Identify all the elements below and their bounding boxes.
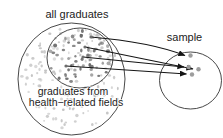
dot xyxy=(44,55,46,59)
dot xyxy=(103,39,106,42)
dot xyxy=(91,123,94,126)
dot xyxy=(80,34,83,38)
dot xyxy=(87,110,89,112)
dot xyxy=(68,51,70,54)
selected-dot xyxy=(81,55,84,58)
dot xyxy=(82,112,84,114)
dot xyxy=(27,91,29,93)
dot xyxy=(53,44,57,48)
dot xyxy=(95,54,98,57)
dot xyxy=(89,50,92,53)
sampling-diagram: all graduates sample graduates from heal… xyxy=(0,0,223,138)
dot xyxy=(81,29,84,33)
dot xyxy=(62,49,65,51)
selected-dot xyxy=(64,64,67,67)
dot xyxy=(95,122,98,124)
dot xyxy=(43,120,45,122)
dot xyxy=(99,55,102,57)
dot xyxy=(62,109,65,111)
dot xyxy=(72,108,75,111)
dot xyxy=(72,63,74,65)
dot xyxy=(91,40,93,42)
dot xyxy=(50,45,53,47)
dot xyxy=(55,117,58,120)
dot xyxy=(100,46,103,49)
dot xyxy=(113,76,115,80)
dot xyxy=(41,65,43,68)
dot xyxy=(82,64,85,66)
dot xyxy=(79,54,81,57)
dot xyxy=(39,78,42,81)
dot xyxy=(86,42,88,45)
dot xyxy=(86,54,90,57)
dot xyxy=(73,69,76,72)
dot xyxy=(52,47,55,49)
dot xyxy=(100,42,104,45)
dot xyxy=(74,120,77,123)
dot xyxy=(85,60,87,63)
dot xyxy=(64,73,67,77)
dot xyxy=(39,61,42,63)
dot xyxy=(102,62,104,65)
dot xyxy=(34,65,37,69)
dot xyxy=(38,45,41,47)
dot xyxy=(105,71,108,73)
sample-dot xyxy=(196,67,200,71)
dot xyxy=(79,67,81,71)
dot xyxy=(100,74,102,76)
dot xyxy=(33,83,35,85)
dot xyxy=(109,55,112,57)
dot xyxy=(98,43,100,46)
dot xyxy=(111,86,113,89)
dot xyxy=(25,76,28,79)
dot xyxy=(77,64,79,66)
dot xyxy=(60,57,63,60)
dot xyxy=(69,80,73,83)
selected-dot xyxy=(89,35,92,38)
dot xyxy=(65,121,68,123)
dot xyxy=(89,58,93,61)
dot xyxy=(50,67,53,70)
dot xyxy=(98,35,100,37)
subgroup-label-line2: health−related fields xyxy=(29,96,123,108)
sample-dot xyxy=(190,72,194,76)
dot xyxy=(55,54,59,57)
dot xyxy=(107,62,111,66)
diagram-canvas: all graduates sample graduates from heal… xyxy=(0,0,223,138)
dot xyxy=(58,77,61,81)
dot xyxy=(36,72,38,74)
dot xyxy=(117,87,119,90)
dot xyxy=(106,44,109,48)
dot xyxy=(31,74,33,77)
dot xyxy=(74,75,76,78)
dot xyxy=(77,42,81,45)
dot xyxy=(93,33,95,35)
sample-dot xyxy=(187,65,191,69)
dot xyxy=(67,41,70,43)
dot xyxy=(58,41,60,43)
dot xyxy=(29,64,32,68)
sample-dots xyxy=(187,53,201,76)
sample-label: sample xyxy=(167,31,202,43)
dot xyxy=(43,50,46,54)
dot xyxy=(61,119,63,123)
dot xyxy=(93,50,95,53)
selection-arrow xyxy=(66,66,187,74)
dot xyxy=(51,79,54,81)
dot xyxy=(64,37,66,41)
dot xyxy=(46,115,49,118)
dot xyxy=(24,69,27,71)
dot xyxy=(75,80,79,83)
dot xyxy=(63,44,65,47)
dot xyxy=(60,126,63,129)
dot xyxy=(75,114,78,118)
dot xyxy=(73,73,77,75)
selection-arrow xyxy=(85,47,193,69)
dot xyxy=(114,54,116,57)
dot xyxy=(72,45,76,47)
dot xyxy=(25,83,27,86)
dot xyxy=(71,34,75,38)
dot xyxy=(20,75,24,78)
dot xyxy=(95,34,98,37)
dot xyxy=(65,78,69,81)
